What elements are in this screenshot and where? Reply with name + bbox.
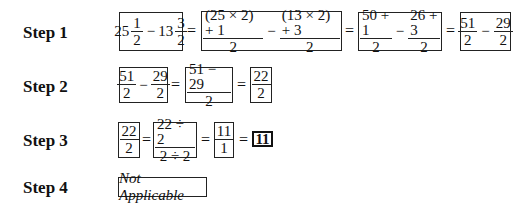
step-1-result-box: 512 − 292 (460, 12, 511, 51)
step-2-combined-box: 51 − 292 (185, 67, 233, 103)
equals-sign: = (237, 77, 246, 93)
step-1-mixed-subtraction-box: 25 12 − 13 32 (119, 12, 183, 51)
whole-13: 13 (158, 23, 173, 40)
fraction: 32 (175, 16, 187, 48)
fraction: 26 + 32 (408, 8, 440, 55)
fraction: 512 (117, 69, 136, 101)
step-2-subtraction-box: 512 − 292 (119, 67, 168, 103)
equals-sign: = (239, 132, 248, 148)
equals-sign: = (345, 23, 354, 39)
fraction: 50 + 12 (360, 8, 392, 55)
fraction: 111 (215, 124, 233, 156)
step-1-improper-conversion-box: (25 × 2) + 12 − (13 × 2) + 32 (201, 11, 342, 51)
fraction: 222 (120, 124, 139, 156)
minus-operator: − (267, 23, 275, 40)
step-3-label: Step 3 (23, 132, 68, 149)
fraction: 12 (131, 16, 143, 48)
step-3-fraction-box: 222 (118, 122, 140, 158)
step-4-label: Step 4 (23, 179, 68, 196)
step-2-result-box: 222 (250, 67, 272, 103)
fraction: 222 (252, 69, 271, 101)
minus-operator: − (396, 23, 404, 40)
equals-sign: = (142, 132, 151, 148)
minus-operator: − (147, 23, 155, 40)
step-3-simplify-box: 22 ÷ 22 ÷ 2 (153, 122, 197, 158)
fraction: 51 − 292 (187, 62, 231, 109)
fraction: 292 (494, 16, 513, 48)
fraction: 512 (458, 16, 477, 48)
fraction: (13 × 2) + 32 (280, 8, 340, 55)
equals-sign: = (201, 132, 210, 148)
step-4-not-applicable-box: Not Applicable (118, 177, 207, 197)
equals-sign: = (171, 77, 180, 93)
equals-sign: = (446, 23, 455, 39)
whole-25: 25 (114, 23, 129, 40)
equals-sign: = (187, 23, 196, 39)
minus-operator: − (481, 23, 489, 40)
fraction: (25 × 2) + 12 (203, 8, 263, 55)
step-2-label: Step 2 (23, 78, 68, 95)
fraction: 22 ÷ 22 ÷ 2 (155, 117, 195, 164)
step-3-final-answer-box: 11 (252, 131, 273, 147)
step-3-simplified-box: 111 (214, 122, 234, 158)
step-1-evaluated-box: 50 + 12 − 26 + 32 (358, 12, 442, 51)
step-1-label: Step 1 (23, 24, 68, 41)
minus-operator: − (139, 77, 147, 94)
fraction: 292 (151, 69, 170, 101)
